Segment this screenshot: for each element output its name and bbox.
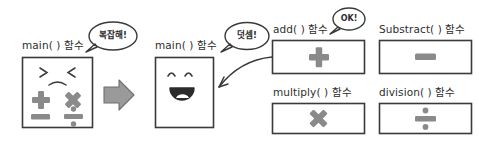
before-symbol-minus [31,114,50,120]
add-ok-bubble-text: OK! [337,14,361,23]
before-bubble-text: 복잡해! [95,31,131,40]
after-bubble-text: 덧셈! [231,31,263,40]
transition-arrow-icon [104,80,134,110]
before-main-label: main( ) 함수 [22,40,84,51]
after-main-label: main( ) 함수 [155,40,217,51]
substract-function-label: Substract( ) 함수 [379,24,466,35]
diagram-vector-layer [0,0,479,141]
substract-box-minus-symbol [415,54,436,61]
add-function-label: add( ) 함수 [273,24,329,35]
diagram-canvas: main( ) 함수 복잡해! main( ) 함수 덧셈! add( ) 함수… [0,0,479,141]
add-to-main-callout-arrow [219,57,272,87]
multiply-function-label: multiply( ) 함수 [273,87,352,98]
division-function-label: division( ) 함수 [379,87,455,98]
